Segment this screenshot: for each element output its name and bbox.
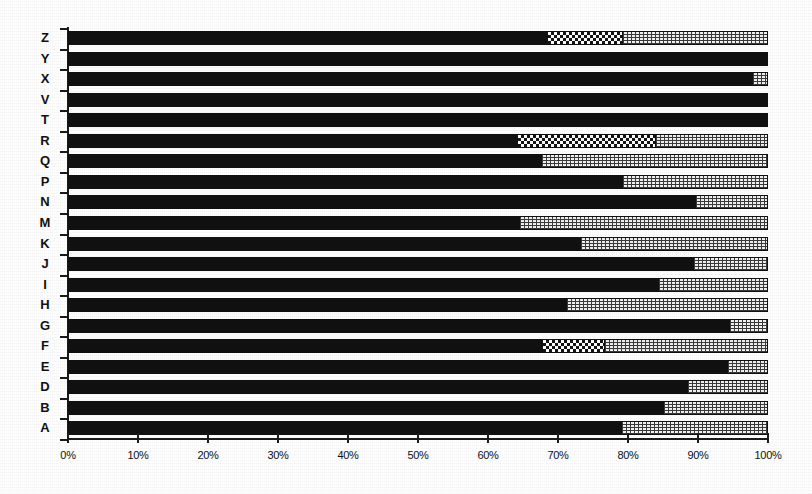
y-axis-tick xyxy=(60,172,69,174)
bar-segment-series-3-stipple xyxy=(541,154,768,168)
y-axis-tick xyxy=(60,357,69,359)
y-axis-category-label: M xyxy=(34,215,56,230)
x-axis-tick-label: 30% xyxy=(253,449,303,461)
y-axis-category-label: B xyxy=(34,400,56,415)
bar-segment-series-1-solid xyxy=(68,113,768,127)
bar-segment-series-3-stipple xyxy=(752,72,768,86)
bar-segment-series-1-solid xyxy=(68,237,580,251)
x-axis-tick xyxy=(347,433,349,443)
stacked-bar-chart: ZYXVTRQPNMKJIHGFEDBA 0%10%20%30%40%50%60… xyxy=(0,0,812,494)
bar-segment-series-3-stipple xyxy=(729,319,768,333)
y-axis-category-label: G xyxy=(34,318,56,333)
bar-segment-series-1-solid xyxy=(68,93,768,107)
y-axis-tick xyxy=(60,90,69,92)
x-axis-tick xyxy=(207,433,209,443)
x-axis-tick-label: 0% xyxy=(43,449,93,461)
y-axis-category-label: V xyxy=(34,92,56,107)
y-axis-tick xyxy=(60,192,69,194)
x-axis-tick xyxy=(487,433,489,443)
y-axis-category-label: I xyxy=(34,277,56,292)
x-axis-tick xyxy=(417,433,419,443)
bar-segment-series-3-stipple xyxy=(622,31,768,45)
x-axis-tick-label: 70% xyxy=(533,449,583,461)
y-axis-category-label: J xyxy=(34,256,56,271)
x-axis-tick-label: 10% xyxy=(113,449,163,461)
bar-segment-series-1-solid xyxy=(68,134,518,148)
bar-segment-series-1-solid xyxy=(68,216,519,230)
bar-segment-series-1-solid xyxy=(68,175,622,189)
y-axis-tick xyxy=(60,377,69,379)
x-axis-tick-label: 50% xyxy=(393,449,443,461)
x-axis-tick-label: 60% xyxy=(463,449,513,461)
y-axis-tick xyxy=(60,418,69,420)
y-axis-tick xyxy=(60,69,69,71)
y-axis-tick xyxy=(60,234,69,236)
y-axis-category-label: K xyxy=(34,236,56,251)
bar-segment-series-3-stipple xyxy=(655,134,768,148)
y-axis-tick xyxy=(60,295,69,297)
bar-segment-series-3-stipple xyxy=(580,237,768,251)
x-axis-tick-label: 20% xyxy=(183,449,233,461)
bar-segment-series-3-stipple xyxy=(621,421,768,435)
bar-segment-series-1-solid xyxy=(68,360,727,374)
bar-segment-series-3-stipple xyxy=(687,380,768,394)
y-axis-tick xyxy=(60,275,69,277)
bar-segment-series-3-stipple xyxy=(604,339,768,353)
y-axis-tick xyxy=(60,131,69,133)
y-axis-category-label: N xyxy=(34,194,56,209)
y-axis-category-label: D xyxy=(34,379,56,394)
y-axis-tick xyxy=(60,398,69,400)
y-axis-category-label: Z xyxy=(34,30,56,45)
bar-segment-series-2-checker xyxy=(518,134,655,148)
x-axis-tick xyxy=(67,433,69,443)
y-axis-tick xyxy=(60,336,69,338)
bar-segment-series-1-solid xyxy=(68,31,548,45)
bar-segment-series-1-solid xyxy=(68,401,663,415)
x-axis-tick xyxy=(697,433,699,443)
bar-segment-series-3-stipple xyxy=(727,360,768,374)
bar-segment-series-3-stipple xyxy=(658,278,768,292)
y-axis-category-label: Q xyxy=(34,153,56,168)
bar-segment-series-1-solid xyxy=(68,421,621,435)
y-axis-category-label: F xyxy=(34,338,56,353)
x-axis-tick-label: 100% xyxy=(743,449,793,461)
y-axis-tick xyxy=(60,49,69,51)
bar-segment-series-2-checker xyxy=(548,31,622,45)
bar-segment-series-1-solid xyxy=(68,298,566,312)
bar-segment-series-3-stipple xyxy=(566,298,768,312)
bar-segment-series-3-stipple xyxy=(693,257,768,271)
x-axis-tick-label: 80% xyxy=(603,449,653,461)
bar-segment-series-3-stipple xyxy=(663,401,768,415)
x-axis-tick-label: 90% xyxy=(673,449,723,461)
x-axis-tick-label: 40% xyxy=(323,449,373,461)
y-axis-tick xyxy=(60,110,69,112)
y-axis-tick xyxy=(60,151,69,153)
y-axis-tick xyxy=(60,28,69,30)
bar-segment-series-1-solid xyxy=(68,380,687,394)
x-axis-tick xyxy=(767,433,769,443)
y-axis-category-label: X xyxy=(34,71,56,86)
y-axis-tick xyxy=(60,316,69,318)
y-axis-category-label: P xyxy=(34,174,56,189)
y-axis-category-label: Y xyxy=(34,51,56,66)
bar-segment-series-1-solid xyxy=(68,154,541,168)
bar-segment-series-1-solid xyxy=(68,72,752,86)
y-axis-category-label: H xyxy=(34,297,56,312)
y-axis-category-label: A xyxy=(34,420,56,435)
bar-segment-series-1-solid xyxy=(68,52,768,66)
bar-segment-series-3-stipple xyxy=(519,216,768,230)
bar-segment-series-1-solid xyxy=(68,195,695,209)
x-axis-tick xyxy=(627,433,629,443)
bar-segment-series-1-solid xyxy=(68,278,658,292)
bar-segment-series-1-solid xyxy=(68,319,729,333)
bar-segment-series-3-stipple xyxy=(695,195,768,209)
y-axis-tick xyxy=(60,254,69,256)
x-axis-tick xyxy=(137,433,139,443)
x-axis-tick xyxy=(557,433,559,443)
y-axis-category-label: R xyxy=(34,133,56,148)
bar-segment-series-1-solid xyxy=(68,339,543,353)
y-axis-tick xyxy=(60,213,69,215)
bar-segment-series-3-stipple xyxy=(622,175,768,189)
bar-segment-series-1-solid xyxy=(68,257,693,271)
bar-segment-series-2-checker xyxy=(543,339,604,353)
